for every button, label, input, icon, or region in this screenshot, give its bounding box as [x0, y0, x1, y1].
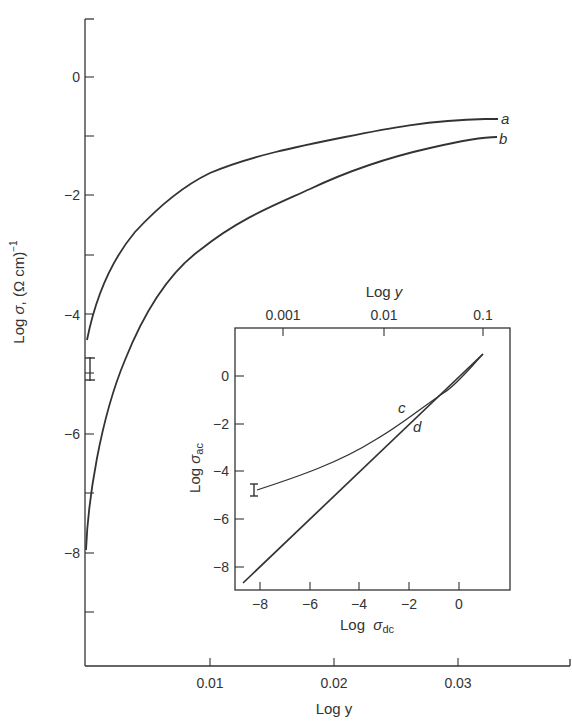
main-y-tick-label: −8 — [64, 545, 80, 561]
inset-x-tick-label: −6 — [302, 596, 318, 612]
main-x-tick-labels: 0.01 0.02 0.03 — [196, 675, 471, 691]
main-y-label-unit: , (Ω cm) — [10, 252, 27, 306]
curve-d-label: d — [413, 418, 422, 435]
inset-y-tick-label: −6 — [213, 511, 229, 527]
main-x-axis-label-text: Log y — [316, 700, 353, 717]
main-y-tick-label: −6 — [64, 426, 80, 442]
inset-bottom-tick-labels: −8 −6 −4 −2 0 — [252, 596, 463, 612]
main-y-tick-label: −4 — [64, 307, 80, 323]
inset-chart — [235, 328, 510, 590]
inset-x-tick-label: −2 — [401, 596, 417, 612]
inset-y-tick-label: −8 — [213, 559, 229, 575]
curve-b-label: b — [499, 130, 507, 147]
inset-x-label-sub: dc — [382, 623, 394, 635]
inset-top-tick-label: 0.1 — [473, 307, 493, 323]
inset-top-tick-labels: 0.001 0.01 0.1 — [265, 307, 492, 323]
main-y-tick-label: −2 — [64, 187, 80, 203]
main-x-tick-label: 0.03 — [444, 675, 471, 691]
main-x-tick-label: 0.02 — [320, 675, 347, 691]
inset-y-label-sub: ac — [193, 443, 205, 455]
main-x-tick-label: 0.01 — [196, 675, 223, 691]
figure: a b 0 −2 −4 −6 −8 0.01 0.02 0.03 Log y L… — [0, 0, 572, 728]
inset-y-tick-label: −2 — [213, 416, 229, 432]
inset-top-label-prefix: Log — [366, 283, 395, 300]
curve-c-label: c — [398, 399, 406, 416]
inset-x-label-prefix: Log — [340, 616, 373, 633]
curve-a-label: a — [501, 110, 509, 127]
main-error-bar — [85, 357, 95, 381]
main-x-ticks — [210, 658, 458, 666]
inset-y-tick-label: 0 — [221, 368, 229, 384]
inset-left-tick-labels: 0 −2 −4 −6 −8 — [213, 368, 229, 575]
main-x-axis-label: Log y — [316, 700, 353, 717]
inset-top-tick-label: 0.001 — [265, 307, 300, 323]
inset-top-tick-label: 0.01 — [370, 307, 397, 323]
inset-y-tick-label: −4 — [213, 463, 229, 479]
inset-y-axis-label: Log σac — [186, 443, 205, 493]
main-y-tick-labels: 0 −2 −4 −6 −8 — [64, 69, 80, 561]
inset-top-axis-label: Log y — [366, 283, 404, 300]
main-y-axis-label: Log σ, (Ω cm)−1 — [8, 240, 27, 344]
main-y-label-exponent: −1 — [8, 240, 19, 252]
inset-x-axis-label: Log σdc — [340, 616, 395, 635]
main-y-tick-label: 0 — [72, 69, 80, 85]
inset-x-tick-label: 0 — [455, 596, 463, 612]
inset-x-tick-label: −4 — [351, 596, 367, 612]
inset-top-label-var: y — [394, 283, 404, 300]
inset-x-tick-label: −8 — [252, 596, 268, 612]
main-y-label-prefix: Log — [10, 314, 27, 343]
inset-y-label-prefix: Log — [186, 464, 203, 493]
